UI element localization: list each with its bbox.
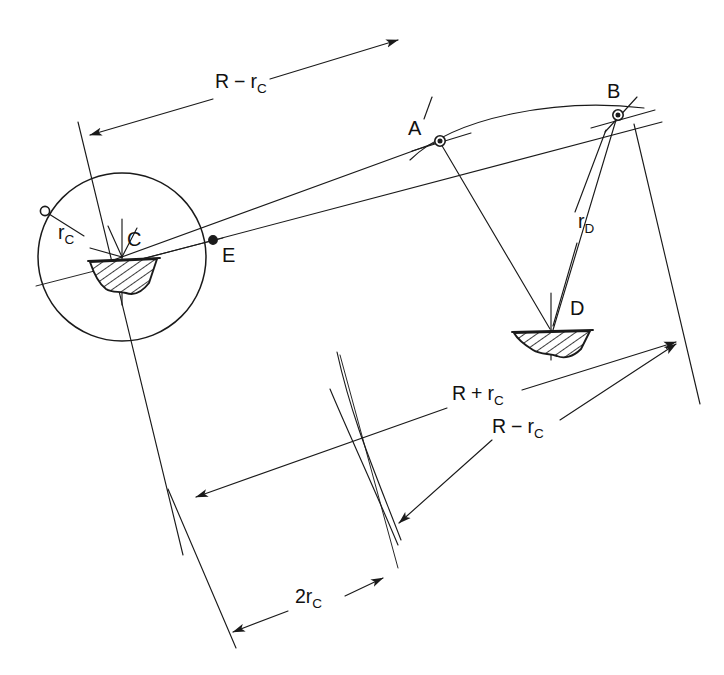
label-point-a: A [408, 117, 422, 139]
rc-anchor-marker-icon [40, 206, 49, 215]
label-point-c: C [127, 228, 141, 250]
geometry-diagram-svg: R−rC R+rC R−rC 2rC rC rD A B C D E [0, 0, 724, 675]
label-r-minus-rc-right-operator: − [511, 415, 522, 437]
label-rd-subscript: D [585, 221, 595, 236]
diagram-canvas: R−rC R+rC R−rC 2rC rC rD A B C D E [0, 0, 724, 675]
point-marker-a [435, 136, 445, 146]
label-r-minus-rc-top-base: R [215, 70, 229, 92]
label-r-plus-rc-subscript: C [494, 393, 504, 408]
label-point-d: D [570, 297, 584, 319]
point-marker-e [209, 236, 218, 245]
label-r-minus-rc-right-subscript: C [534, 426, 544, 441]
label-point-e: E [222, 244, 235, 266]
label-point-b: B [607, 80, 620, 102]
label-two-rc-base: 2r [295, 585, 313, 607]
label-r-plus-rc-operator: + [471, 382, 482, 404]
point-marker-b [613, 110, 623, 120]
label-r-minus-rc-right-base: R [492, 415, 506, 437]
label-rc-subscript: C [65, 232, 75, 247]
label-r-minus-rc-top-operator: − [234, 70, 245, 92]
label-r-plus-rc-base: R [452, 382, 466, 404]
label-two-rc-subscript: C [312, 596, 322, 611]
label-r-minus-rc-top-subscript: C [257, 81, 267, 96]
